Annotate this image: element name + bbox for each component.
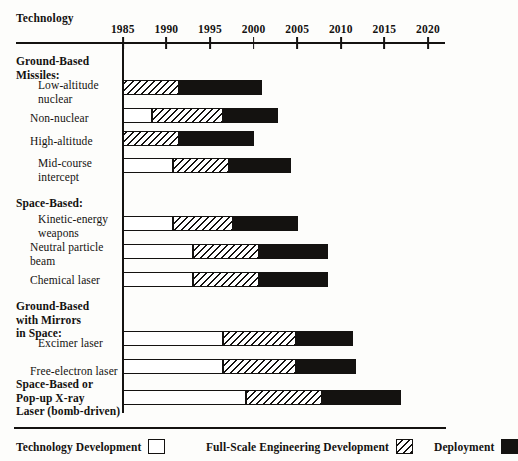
axis-year-label-2000: 2000 xyxy=(242,23,266,35)
chart-legend: Technology DevelopmentFull-Scale Enginee… xyxy=(16,437,446,455)
segment-full-scale-engineering-development xyxy=(193,272,259,287)
group-heading-ground-based-missiles: Ground-Based Missiles: xyxy=(16,55,89,82)
segment-full-scale-engineering-development xyxy=(193,244,259,259)
axis-tick-1995 xyxy=(209,37,211,49)
segment-deployment xyxy=(179,80,262,95)
legend-item-full-scale-engineering-development: Full-Scale Engineering Development xyxy=(206,437,413,455)
legend-item-technology-development: Technology Development xyxy=(16,437,165,455)
segment-technology-development xyxy=(123,390,246,405)
segment-technology-development xyxy=(123,158,173,173)
axis-year-label-2015: 2015 xyxy=(372,23,396,35)
year-axis-labels: 19851990199520002005201020152020 xyxy=(0,12,455,44)
axis-year-label-1995: 1995 xyxy=(198,23,222,35)
axis-year-label-2020: 2020 xyxy=(416,23,440,35)
bar-high-altitude xyxy=(0,131,455,146)
segment-technology-development xyxy=(123,244,193,259)
bar-kinetic-energy-weapons xyxy=(0,216,455,231)
bar-non-nuclear xyxy=(0,108,455,123)
legend-label: Full-Scale Engineering Development xyxy=(206,441,389,453)
segment-deployment xyxy=(223,108,278,123)
bar-space-based-or-pop-up-x-ray-laser-bomb-driven xyxy=(0,390,455,405)
axis-tick-2005 xyxy=(296,37,298,49)
axis-year-label-2010: 2010 xyxy=(329,23,353,35)
bar-excimer-laser xyxy=(0,331,455,346)
legend-swatch-tech xyxy=(148,439,165,454)
legend-label: Technology Development xyxy=(16,441,141,453)
bar-free-electron-laser xyxy=(0,359,455,374)
segment-technology-development xyxy=(123,331,223,346)
segment-technology-development xyxy=(123,272,193,287)
segment-full-scale-engineering-development xyxy=(246,390,323,405)
segment-deployment xyxy=(296,359,355,374)
segment-technology-development xyxy=(123,359,223,374)
axis-tick-2015 xyxy=(383,37,385,49)
legend-swatch-deploy xyxy=(501,439,518,454)
axis-tick-1990 xyxy=(165,37,167,49)
segment-deployment xyxy=(259,272,328,287)
legend-item-deployment: Deployment xyxy=(434,437,518,455)
axis-tick-2020 xyxy=(427,37,429,49)
axis-year-label-1990: 1990 xyxy=(154,23,178,35)
segment-deployment xyxy=(322,390,400,405)
segment-full-scale-engineering-development xyxy=(152,108,224,123)
segment-technology-development xyxy=(123,108,152,123)
axis-tick-2010 xyxy=(340,37,342,49)
segment-full-scale-engineering-development xyxy=(223,359,296,374)
time-axis-line xyxy=(16,42,445,44)
segment-full-scale-engineering-development xyxy=(173,158,230,173)
segment-technology-development xyxy=(123,216,174,231)
segment-deployment xyxy=(179,131,253,146)
segment-deployment xyxy=(233,216,298,231)
segment-full-scale-engineering-development xyxy=(123,80,180,95)
segment-deployment xyxy=(296,331,353,346)
segment-full-scale-engineering-development xyxy=(223,331,296,346)
axis-year-label-2005: 2005 xyxy=(285,23,309,35)
legend-swatch-fse xyxy=(396,439,413,454)
bar-neutral-particle-beam xyxy=(0,244,455,259)
segment-full-scale-engineering-development xyxy=(123,131,180,146)
axis-year-label-1985: 1985 xyxy=(111,23,135,35)
legend-divider xyxy=(14,427,446,429)
bar-mid-course-intercept xyxy=(0,158,455,173)
group-heading-space-based: Space-Based: xyxy=(16,197,83,211)
axis-tick-2000 xyxy=(253,37,255,49)
segment-deployment xyxy=(259,244,328,259)
segment-deployment xyxy=(229,158,291,173)
bar-low-altitude-nuclear xyxy=(0,80,455,95)
segment-full-scale-engineering-development xyxy=(173,216,232,231)
bar-chemical-laser xyxy=(0,272,455,287)
legend-label: Deployment xyxy=(434,441,494,453)
